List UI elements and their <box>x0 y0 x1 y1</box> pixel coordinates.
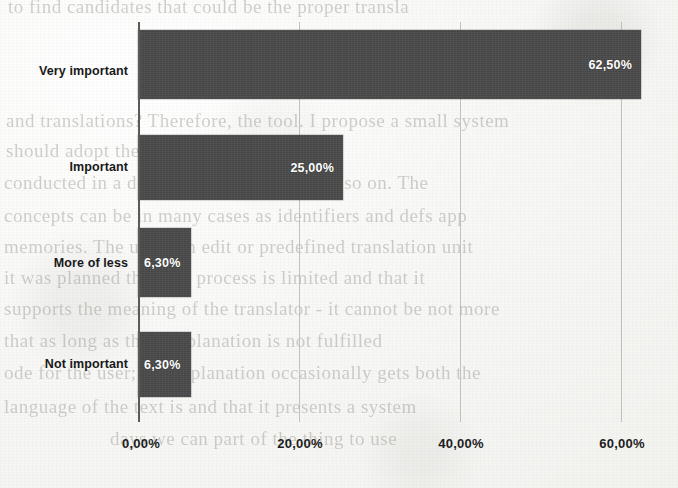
category-label-not-important: Not important <box>45 357 128 371</box>
bar-chart: 62,50% 25,00% 6,30% 6,30% Very important… <box>0 0 678 488</box>
category-axis-labels: Very important Important More of less No… <box>0 0 678 488</box>
x-tick-label-0: 0,00% <box>122 436 160 451</box>
category-label-important: Important <box>69 160 128 174</box>
x-tick-label-40: 40,00% <box>438 436 483 451</box>
y-axis-line <box>138 22 140 422</box>
category-label-more-of-less: More of less <box>54 256 128 270</box>
category-label-very-important: Very important <box>39 64 128 78</box>
x-tick-label-60: 60,00% <box>599 436 644 451</box>
x-tick-label-20: 20,00% <box>277 436 322 451</box>
